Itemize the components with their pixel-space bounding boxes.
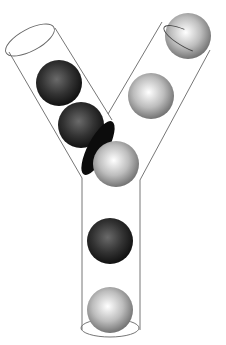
dark-ball-stem	[87, 218, 133, 264]
diagram-canvas	[0, 0, 226, 345]
light-ball-2	[128, 73, 174, 119]
light-ball-top	[165, 13, 211, 59]
dark-ball-1	[36, 60, 82, 106]
light-ball-bottom	[87, 287, 133, 333]
light-ball-junction	[93, 141, 139, 187]
y-tube-diagram	[0, 0, 226, 345]
